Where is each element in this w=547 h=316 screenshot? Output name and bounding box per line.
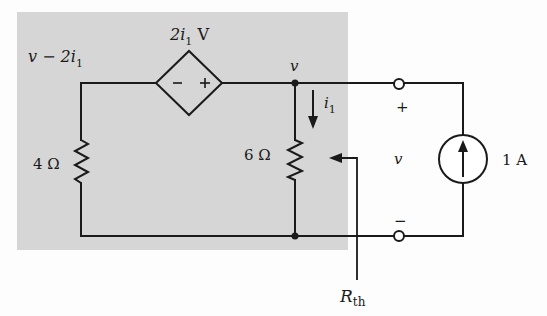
wire-right-bottom [404, 183, 463, 236]
terminal-plus-label: + [396, 98, 409, 116]
node-v-dot [292, 80, 299, 87]
resistor-6ohm-label: 6 Ω [244, 146, 271, 164]
resistor-4ohm-label: 4 Ω [33, 155, 60, 173]
node-bottom-dot [292, 233, 299, 240]
node-voltage-label: v [290, 57, 299, 75]
thevenin-resistance-label: Rth [339, 286, 366, 309]
wire-right-top [403, 83, 463, 135]
terminal-top [394, 79, 404, 89]
circuit-diagram: v − 2i1 2i1 V v i1 4 Ω 6 Ω + v − 1 A Rth [0, 0, 547, 316]
terminal-minus-label: − [394, 212, 407, 230]
current-source-label: 1 A [502, 151, 527, 169]
terminal-voltage-label: v [394, 150, 403, 168]
terminal-bottom [394, 231, 404, 241]
